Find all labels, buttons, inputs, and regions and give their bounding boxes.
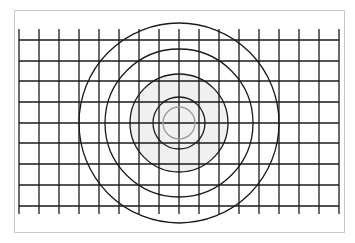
grid-circles-diagram xyxy=(0,0,355,243)
